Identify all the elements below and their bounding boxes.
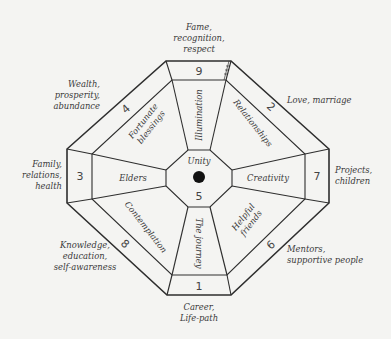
bagua-diagram: Unity 5 9 2 7 6 1 8 3 4 Illumination Rel… bbox=[0, 0, 391, 339]
center-dot bbox=[193, 171, 205, 183]
outer-label-wealth: Wealth, prosperity, abundance bbox=[40, 79, 100, 112]
sector-number-9: 9 bbox=[196, 65, 203, 78]
sector-number-7: 7 bbox=[314, 170, 321, 183]
outer-label-love: Love, marriage bbox=[287, 95, 352, 106]
center-label: Unity bbox=[184, 156, 214, 166]
area-creativity: Creativity bbox=[238, 173, 298, 183]
center-number: 5 bbox=[196, 190, 203, 203]
sector-number-3: 3 bbox=[77, 170, 84, 183]
outer-label-fame: Fame, recognition, respect bbox=[165, 22, 233, 55]
area-elders: Elders bbox=[108, 173, 158, 183]
outer-label-career: Career, Life-path bbox=[170, 302, 228, 324]
area-illumination: Illumination bbox=[194, 80, 204, 150]
outer-label-family: Family, relations, health bbox=[10, 159, 62, 192]
outer-label-projects: Projects, children bbox=[335, 165, 372, 187]
outer-label-knowledge: Knowledge, education, self-awareness bbox=[44, 240, 126, 273]
sector-number-1: 1 bbox=[196, 280, 203, 293]
area-the-journey: The journey bbox=[194, 208, 204, 278]
outer-label-mentors: Mentors, supportive people bbox=[287, 244, 363, 266]
